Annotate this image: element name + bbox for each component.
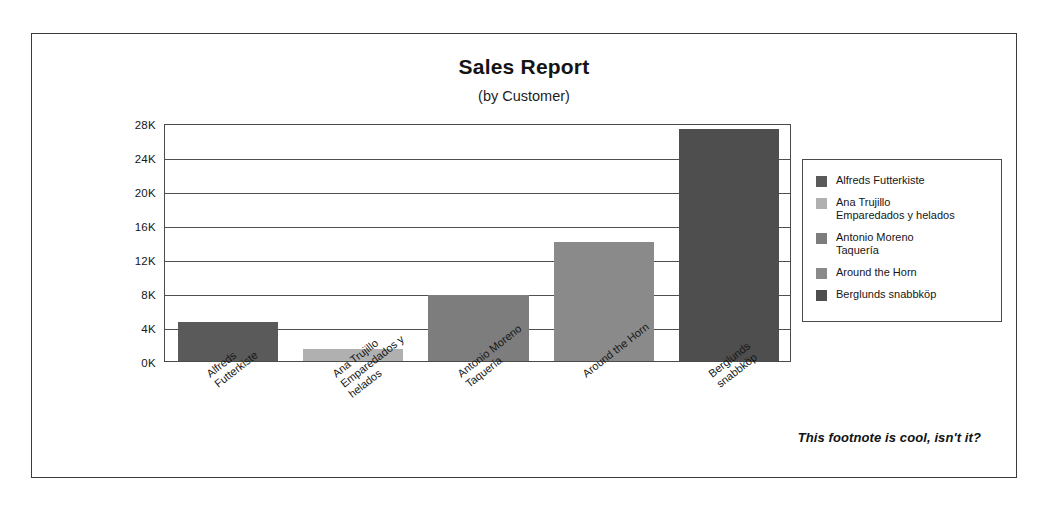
y-axis-tick-label: 28K [135,119,156,131]
y-axis-tick-label: 4K [141,323,156,335]
chart-subtitle: (by Customer) [32,88,1016,104]
y-axis-tick-label: 0K [141,357,156,369]
legend-label: Around the Horn [836,266,917,279]
legend-item[interactable]: Berglunds snabbköp [816,288,991,301]
legend-item[interactable]: Alfreds Futterkiste [816,174,991,187]
legend: Alfreds FutterkisteAna Trujillo Empareda… [802,159,1002,322]
legend-item[interactable]: Ana Trujillo Emparedados y helados [816,196,991,222]
bars-series [165,125,790,361]
y-axis-tick-label: 8K [141,289,156,301]
bar[interactable] [554,242,654,361]
y-axis-tick-label: 20K [135,187,156,199]
legend-swatch-icon [816,268,827,279]
x-axis-labels: AlfredsFutterkisteAna TrujilloEmparedado… [164,362,791,472]
legend-label: Antonio Moreno Taquería [836,231,914,257]
footnote: This footnote is cool, isn't it? [798,430,981,445]
y-axis-tick-label: 24K [135,153,156,165]
plot-area: 0K4K8K12K16K20K24K28K [164,124,791,362]
legend-swatch-icon [816,233,827,244]
bar[interactable] [679,129,779,361]
legend-swatch-icon [816,290,827,301]
y-axis-tick-label: 12K [135,255,156,267]
legend-swatch-icon [816,198,827,209]
legend-label: Berglunds snabbköp [836,288,936,301]
report-frame: Sales Report (by Customer) 0K4K8K12K16K2… [31,33,1017,478]
legend-label: Ana Trujillo Emparedados y helados [836,196,955,222]
y-axis-tick-label: 16K [135,221,156,233]
legend-swatch-icon [816,176,827,187]
legend-item[interactable]: Antonio Moreno Taquería [816,231,991,257]
chart-title: Sales Report [32,55,1016,79]
legend-label: Alfreds Futterkiste [836,174,925,187]
legend-item[interactable]: Around the Horn [816,266,991,279]
